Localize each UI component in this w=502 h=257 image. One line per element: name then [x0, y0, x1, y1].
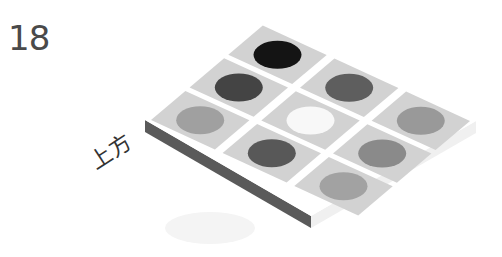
board-piece	[287, 107, 335, 135]
board-piece	[176, 106, 224, 134]
board-piece	[358, 140, 406, 168]
board-shadow	[165, 212, 255, 244]
board-piece	[248, 139, 296, 167]
board-piece	[215, 74, 263, 102]
board-piece	[320, 172, 368, 200]
board-piece	[397, 107, 445, 135]
board-piece	[325, 74, 373, 102]
board-piece	[254, 41, 302, 69]
isometric-board	[0, 0, 502, 257]
